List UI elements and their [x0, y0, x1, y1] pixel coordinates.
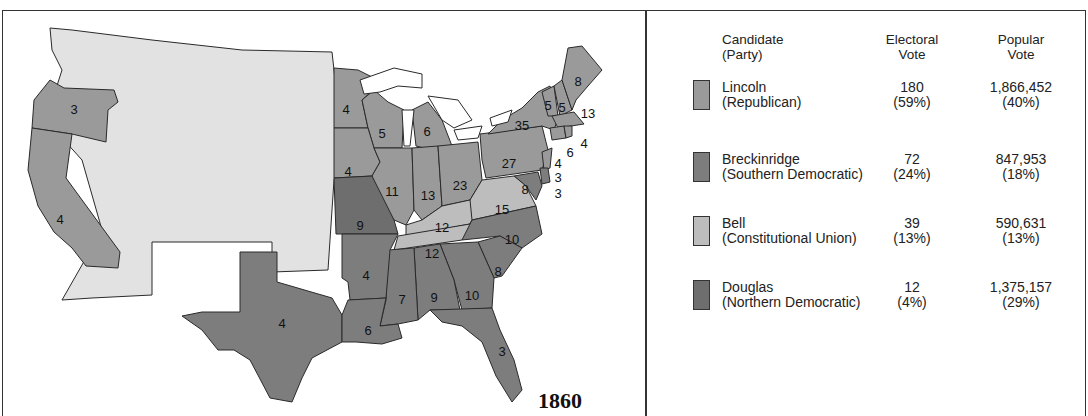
lake-erie — [454, 126, 482, 140]
label-maryland-callout: 3 — [554, 186, 561, 201]
pv-percent: (13%) — [976, 231, 1066, 246]
pv-bell: 590,631 (13%) — [976, 216, 1066, 246]
ev-douglas: 12 (4%) — [872, 280, 952, 310]
connecticut — [550, 126, 566, 140]
label-louisiana: 6 — [364, 323, 371, 338]
pv-count: 1,866,452 — [976, 80, 1066, 95]
us-map-1860: 3 4 4 5 6 4 11 13 23 27 35 5 5 8 13 4 6 … — [2, 10, 646, 416]
florida — [430, 308, 522, 402]
pv-douglas: 1,375,157 (29%) — [976, 280, 1066, 310]
label-iowa: 4 — [344, 164, 351, 179]
lake-superior — [360, 68, 422, 94]
header-ev-line2: Vote — [872, 47, 952, 62]
ev-count: 72 — [872, 152, 952, 167]
candidate-name: Breckinridge — [722, 152, 863, 167]
swatch-bell — [693, 216, 710, 246]
header-candidate-line1: Candidate — [722, 32, 784, 47]
pv-count: 1,375,157 — [976, 280, 1066, 295]
legend-table: Candidate (Party) Electoral Vote Popular… — [646, 10, 1088, 416]
label-michigan: 6 — [423, 124, 430, 139]
label-pennsylvania: 27 — [502, 156, 516, 171]
label-wisconsin: 5 — [378, 126, 385, 141]
electoral-map: 3 4 4 5 6 4 11 13 23 27 35 5 5 8 13 4 6 … — [2, 10, 646, 416]
ev-lincoln: 180 (59%) — [872, 80, 952, 110]
candidate-name: Douglas — [722, 280, 860, 295]
candidate-party: (Southern Democratic) — [722, 167, 863, 182]
header-ev-line1: Electoral — [872, 32, 952, 47]
label-indiana: 13 — [421, 188, 435, 203]
header-popular-vote: Popular Vote — [976, 32, 1066, 62]
pv-lincoln: 1,866,452 (40%) — [976, 80, 1066, 110]
ev-percent: (4%) — [872, 295, 952, 310]
header-candidate-line2: (Party) — [722, 47, 784, 62]
label-rhode-island: 4 — [580, 136, 587, 151]
pv-count: 590,631 — [976, 216, 1066, 231]
new-jersey — [542, 148, 552, 170]
label-delaware: 3 — [554, 170, 561, 185]
candidate-name: Lincoln — [722, 80, 801, 95]
texas — [182, 252, 342, 402]
header-candidate: Candidate (Party) — [722, 32, 784, 62]
candidate-breckinridge: Breckinridge (Southern Democratic) — [722, 152, 863, 182]
pv-percent: (40%) — [976, 95, 1066, 110]
header-electoral-vote: Electoral Vote — [872, 32, 952, 62]
legend-row-douglas: Douglas (Northern Democratic) 12 (4%) 1,… — [646, 280, 1088, 316]
label-georgia: 10 — [465, 288, 479, 303]
label-kentucky: 12 — [435, 220, 449, 235]
label-maine: 8 — [574, 74, 581, 89]
candidate-party: (Northern Democratic) — [722, 295, 860, 310]
swatch-douglas — [693, 280, 710, 310]
candidate-name: Bell — [722, 216, 857, 231]
header-pv-line1: Popular — [976, 32, 1066, 47]
label-ohio: 23 — [453, 178, 467, 193]
ev-breckinridge: 72 (24%) — [872, 152, 952, 182]
pv-percent: (29%) — [976, 295, 1066, 310]
delaware — [540, 168, 550, 184]
candidate-lincoln: Lincoln (Republican) — [722, 80, 801, 110]
label-tennessee: 12 — [425, 246, 439, 261]
ev-percent: (13%) — [872, 231, 952, 246]
label-maryland: 8 — [521, 182, 528, 197]
label-california: 4 — [56, 212, 63, 227]
label-new-york: 35 — [515, 118, 529, 133]
pv-breckinridge: 847,953 (18%) — [976, 152, 1066, 182]
map-year: 1860 — [538, 388, 582, 414]
ev-percent: (59%) — [872, 95, 952, 110]
label-virginia: 15 — [495, 202, 509, 217]
label-new-jersey: 4 — [554, 156, 561, 171]
label-illinois: 11 — [385, 184, 399, 199]
label-connecticut: 6 — [566, 145, 573, 160]
label-florida: 3 — [498, 344, 505, 359]
legend-row-breckinridge: Breckinridge (Southern Democratic) 72 (2… — [646, 152, 1088, 188]
pv-count: 847,953 — [976, 152, 1066, 167]
label-south-carolina: 8 — [494, 264, 501, 279]
swatch-breckinridge — [693, 152, 710, 182]
label-vermont: 5 — [544, 98, 551, 113]
ev-count: 12 — [872, 280, 952, 295]
candidate-party: (Constitutional Union) — [722, 231, 857, 246]
ev-bell: 39 (13%) — [872, 216, 952, 246]
label-minnesota: 4 — [342, 102, 349, 117]
label-alabama: 9 — [430, 290, 437, 305]
ev-percent: (24%) — [872, 167, 952, 182]
header-pv-line2: Vote — [976, 47, 1066, 62]
ev-count: 180 — [872, 80, 952, 95]
rhode-island — [564, 126, 572, 138]
label-oregon: 3 — [70, 102, 77, 117]
label-massachusetts: 13 — [581, 106, 595, 121]
label-arkansas: 4 — [362, 268, 369, 283]
legend-row-lincoln: Lincoln (Republican) 180 (59%) 1,866,452… — [646, 80, 1088, 116]
ev-count: 39 — [872, 216, 952, 231]
label-new-hampshire: 5 — [558, 100, 565, 115]
label-missouri: 9 — [356, 218, 363, 233]
candidate-douglas: Douglas (Northern Democratic) — [722, 280, 860, 310]
swatch-lincoln — [693, 80, 710, 110]
label-texas: 4 — [278, 316, 285, 331]
label-north-carolina: 10 — [505, 232, 519, 247]
pv-percent: (18%) — [976, 167, 1066, 182]
lake-michigan — [402, 110, 414, 146]
candidate-party: (Republican) — [722, 95, 801, 110]
label-mississippi: 7 — [398, 292, 405, 307]
legend-row-bell: Bell (Constitutional Union) 39 (13%) 590… — [646, 216, 1088, 252]
candidate-bell: Bell (Constitutional Union) — [722, 216, 857, 246]
